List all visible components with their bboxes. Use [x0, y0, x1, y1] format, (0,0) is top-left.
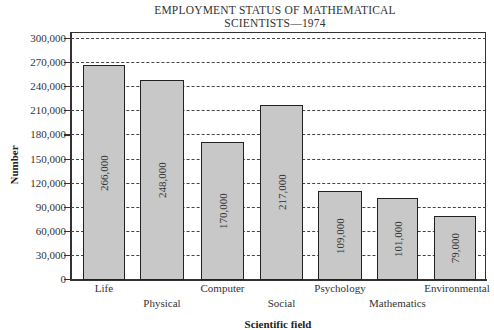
- bar-value-label: 217,000: [276, 174, 288, 210]
- bar-value-label: 266,000: [98, 155, 110, 191]
- y-tick-label: 270,000: [6, 56, 66, 68]
- x-category-label: Life: [95, 282, 113, 294]
- bar-environmental: 79,000: [434, 216, 476, 280]
- bar-psychology: 109,000: [318, 191, 362, 280]
- gridline: [71, 38, 486, 39]
- bar-computer: 170,000: [201, 142, 244, 280]
- y-tick-label: 60,000: [6, 225, 66, 237]
- x-category-label: Mathematics: [369, 297, 426, 309]
- bar-value-label: 170,000: [217, 193, 229, 229]
- chart-title-line-1: EMPLOYMENT STATUS OF MATHEMATICAL: [130, 4, 420, 17]
- x-category-label: Psychology: [314, 282, 365, 294]
- bar-value-label: 79,000: [449, 233, 461, 263]
- gridline: [71, 62, 486, 63]
- bar-life: 266,000: [83, 65, 125, 280]
- y-tick-label: 300,000: [6, 32, 66, 44]
- y-axis-title: Number: [8, 145, 20, 184]
- gridline: [71, 86, 486, 87]
- y-tick-label: 180,000: [6, 128, 66, 140]
- bar-physical: 248,000: [140, 80, 184, 280]
- x-category-label: Computer: [201, 282, 245, 294]
- bar-mathematics: 101,000: [377, 198, 418, 280]
- y-tick-label: 210,000: [6, 104, 66, 116]
- bar-social: 217,000: [260, 105, 303, 280]
- x-category-label: Physical: [143, 297, 180, 309]
- bar-value-label: 109,000: [334, 218, 346, 254]
- chart-title-line-2: SCIENTISTS—1974: [130, 17, 420, 30]
- x-category-label: Social: [268, 297, 296, 309]
- y-axis-line: [70, 32, 72, 280]
- y-tick-label: 240,000: [6, 80, 66, 92]
- bar-value-label: 101,000: [392, 221, 404, 257]
- x-category-label: Environmental: [424, 282, 489, 294]
- y-tick-label: 90,000: [6, 201, 66, 213]
- chart-title: EMPLOYMENT STATUS OF MATHEMATICAL SCIENT…: [130, 4, 420, 30]
- bar-value-label: 248,000: [156, 162, 168, 198]
- y-tick-label: 30,000: [6, 249, 66, 261]
- x-axis-title: Scientific field: [245, 318, 312, 330]
- y-tick-label: 0: [6, 273, 66, 285]
